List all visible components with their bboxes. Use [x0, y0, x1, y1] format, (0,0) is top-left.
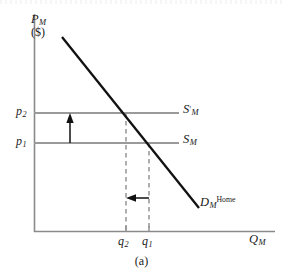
- x-tick-label-q1: q1: [142, 235, 152, 250]
- x-axis-title: QM: [249, 233, 266, 247]
- supply-shifted-curve-label: S'M: [183, 103, 199, 117]
- demand-curve-label: DMHome: [200, 196, 235, 210]
- demand-curve: [62, 37, 199, 208]
- y-tick-label-p2: p2: [16, 105, 26, 120]
- quantity-fall-arrow: [126, 194, 149, 202]
- economics-figure-panel-a: PM ($) QM p2 p1 q2 q1 S'M SM DMHome (a): [0, 0, 283, 278]
- y-tick-label-p1: p1: [16, 135, 26, 150]
- price-rise-arrow: [66, 113, 73, 143]
- supply-curve-label: SM: [183, 133, 197, 147]
- panel-caption: (a): [0, 254, 283, 269]
- x-tick-label-q2: q2: [118, 235, 128, 250]
- y-axis-units: ($): [31, 26, 45, 39]
